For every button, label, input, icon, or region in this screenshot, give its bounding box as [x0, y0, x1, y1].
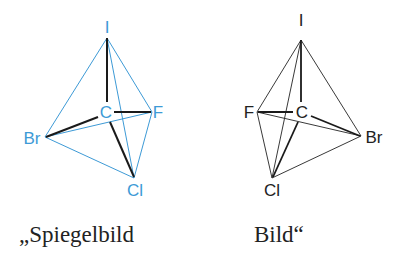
- mirror-caption: „Spiegelbild: [19, 222, 134, 248]
- atom-bromine: Br: [366, 128, 383, 147]
- image-tetrahedron-edges: [257, 40, 361, 178]
- atom-carbon: C: [296, 103, 308, 122]
- mirror-bonds: [46, 38, 151, 177]
- atom-chlorine: Cl: [264, 181, 280, 200]
- atom-fluorine: F: [244, 103, 254, 122]
- atom-chlorine: Cl: [127, 181, 143, 200]
- atom-iodine: I: [105, 18, 110, 37]
- image-bonds: [258, 40, 360, 177]
- atom-fluorine: F: [153, 103, 163, 122]
- enantiomer-diagram: I C F Br Cl I C F Br Cl: [0, 0, 403, 259]
- atom-carbon: C: [100, 103, 112, 122]
- image-caption: Bild“: [254, 222, 304, 248]
- mirror-tetrahedron-edges: [45, 38, 152, 178]
- atom-iodine: I: [299, 11, 304, 30]
- image-molecule: I C F Br Cl: [244, 11, 383, 200]
- atom-bromine: Br: [24, 129, 41, 148]
- mirror-molecule: I C F Br Cl: [24, 18, 164, 200]
